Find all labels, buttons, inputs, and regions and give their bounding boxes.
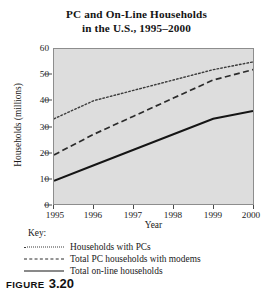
- series-line-total-on-line-households: [54, 111, 253, 181]
- y-tick-mark-0: [44, 205, 52, 206]
- figure-title: PC and On-Line Households in the U.S., 1…: [0, 8, 273, 35]
- solid-line-icon: [24, 266, 64, 276]
- figure-3-20: PC and On-Line Households in the U.S., 1…: [0, 0, 273, 296]
- dotted-line-icon: [24, 242, 64, 252]
- legend-item-pc-households-with-modems: Total PC households with modems: [24, 253, 273, 265]
- series-canvas: [54, 49, 253, 204]
- chart-area: Households (millions) 0 10 20 30 40 50 6…: [0, 44, 273, 224]
- x-tick-label-2000: 2000: [242, 210, 260, 220]
- y-tick-label-50: 50: [3, 69, 49, 79]
- x-tick-label-1995: 1995: [46, 210, 64, 220]
- y-tick-label-40: 40: [3, 95, 49, 105]
- series-line-households-with-pcs: [54, 62, 253, 119]
- legend-label-households-with-pcs: Households with PCs: [70, 242, 151, 252]
- x-tick-label-1999: 1999: [204, 210, 222, 220]
- legend-item-households-with-pcs: Households with PCs: [24, 241, 273, 253]
- y-tick-mark-20: [44, 152, 52, 153]
- plot-region: [53, 48, 254, 205]
- caption-word: FIGURE: [6, 279, 45, 290]
- legend-label-total-on-line-households: Total on-line households: [70, 266, 163, 276]
- x-tick-label-1996: 1996: [84, 210, 102, 220]
- figure-title-line-1: PC and On-Line Households: [0, 8, 273, 22]
- x-tick-mark-1999: [213, 205, 214, 209]
- y-tick-mark-10: [44, 178, 52, 179]
- legend-entries: Households with PCs Total PC households …: [24, 241, 273, 277]
- legend-label-pc-households-with-modems: Total PC households with modems: [70, 254, 201, 264]
- x-tick-mark-1997: [133, 205, 134, 209]
- y-tick-label-30: 30: [3, 122, 49, 132]
- y-axis-ticks: 0 10 20 30 40 50 60: [0, 48, 49, 205]
- dashed-line-icon: [24, 254, 64, 264]
- caption-number: 3.20: [49, 276, 74, 291]
- y-tick-label-60: 60: [3, 43, 49, 53]
- figure-title-line-2: in the U.S., 1995–2000: [0, 22, 273, 36]
- y-tick-mark-30: [44, 126, 52, 127]
- x-tick-label-1997: 1997: [124, 210, 142, 220]
- x-tick-mark-1998: [173, 205, 174, 209]
- y-tick-label-20: 20: [3, 148, 49, 158]
- x-tick-label-1998: 1998: [164, 210, 182, 220]
- x-tick-mark-1995: [53, 205, 54, 209]
- x-tick-mark-2000: [253, 205, 254, 209]
- legend-heading: Key:: [28, 228, 46, 238]
- y-tick-label-0: 0: [3, 200, 49, 210]
- figure-caption: FIGURE 3.20: [6, 276, 74, 291]
- y-tick-mark-50: [44, 74, 52, 75]
- x-tick-mark-1996: [93, 205, 94, 209]
- y-tick-label-10: 10: [3, 174, 49, 184]
- y-tick-mark-40: [44, 100, 52, 101]
- x-axis-label: Year: [53, 220, 254, 230]
